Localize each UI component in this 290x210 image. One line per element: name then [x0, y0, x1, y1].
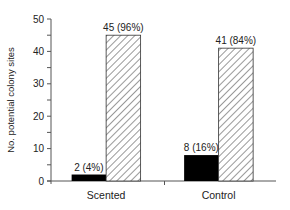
x-category-label: Scented — [87, 189, 126, 201]
bar-unoccupied-control — [219, 48, 254, 181]
data-label: 41 (84%) — [216, 35, 257, 46]
y-tick-label: 30 — [33, 78, 45, 89]
data-label: 2 (4%) — [74, 162, 103, 173]
bar-occupied-control — [184, 155, 219, 181]
y-axis: 01020304050 — [33, 14, 51, 187]
x-axis: ScentedControl — [47, 181, 276, 201]
bars — [72, 35, 254, 181]
data-label: 45 (96%) — [103, 22, 144, 33]
y-tick-label: 0 — [38, 176, 44, 187]
y-tick-label: 50 — [33, 14, 45, 25]
y-axis-title: No. potential colony sites — [5, 47, 16, 153]
y-tick-label: 40 — [33, 46, 45, 57]
bar-chart: 01020304050 ScentedControl 2 (4%)45 (96%… — [0, 0, 290, 210]
y-tick-label: 10 — [33, 143, 45, 154]
x-category-label: Control — [202, 189, 236, 201]
bar-unoccupied-scented — [106, 35, 141, 181]
bar-occupied-scented — [72, 175, 107, 181]
data-label: 8 (16%) — [184, 142, 219, 153]
y-tick-label: 20 — [33, 111, 45, 122]
